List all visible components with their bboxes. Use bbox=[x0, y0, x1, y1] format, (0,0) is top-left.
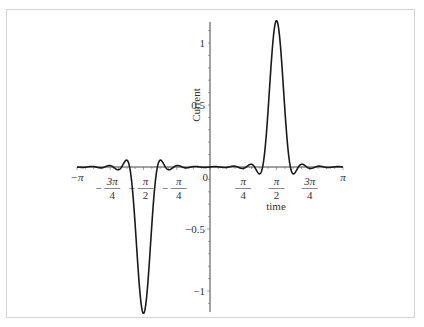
line-chart: 10.5−0.5−1−π3π4π2π40π4π23π4π Current tim… bbox=[0, 0, 424, 327]
x-axis-title: time bbox=[266, 200, 286, 212]
svg-text:π: π bbox=[143, 175, 149, 187]
x-tick-label: π bbox=[340, 171, 346, 183]
y-axis-title: Current bbox=[190, 88, 202, 122]
svg-text:4: 4 bbox=[307, 189, 313, 201]
y-tick-label: −1 bbox=[193, 285, 205, 297]
x-tick-label-fraction: π4 bbox=[235, 175, 251, 201]
svg-text:3π: 3π bbox=[303, 175, 316, 187]
svg-text:4: 4 bbox=[176, 189, 182, 201]
y-tick-label: 1 bbox=[200, 37, 206, 49]
svg-text:3π: 3π bbox=[106, 175, 119, 187]
svg-text:π: π bbox=[240, 175, 246, 187]
svg-text:π: π bbox=[176, 175, 182, 187]
svg-text:4: 4 bbox=[241, 189, 247, 201]
x-tick-label-fraction: π2 bbox=[269, 175, 285, 201]
svg-text:4: 4 bbox=[110, 189, 116, 201]
y-tick-label: −0.5 bbox=[185, 223, 205, 235]
svg-text:2: 2 bbox=[143, 189, 149, 201]
x-tick-label: 0 bbox=[203, 171, 209, 183]
x-tick-label-fraction: 3π4 bbox=[302, 175, 318, 201]
x-tick-label-fraction: 3π4 bbox=[96, 175, 120, 201]
x-tick-label-fraction: π4 bbox=[163, 175, 187, 201]
svg-text:π: π bbox=[274, 175, 280, 187]
x-tick-label: −π bbox=[71, 171, 84, 183]
